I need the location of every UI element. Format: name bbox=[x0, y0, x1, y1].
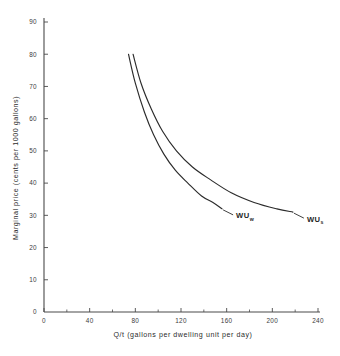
x-tick-label: 40 bbox=[86, 317, 94, 324]
chart-background bbox=[0, 0, 340, 356]
x-tick-label: 0 bbox=[42, 317, 46, 324]
x-tick-label: 120 bbox=[175, 317, 187, 324]
y-tick-label: 30 bbox=[29, 212, 37, 219]
y-axis-title: Marginal price (cents per 1000 gallons) bbox=[12, 96, 20, 240]
marginal-price-demand-chart: 04080120160200240 0102030405060708090 WU… bbox=[0, 0, 340, 356]
curve-label-text: WU bbox=[307, 215, 321, 224]
y-tick-label: 50 bbox=[29, 147, 37, 154]
y-tick-label: 80 bbox=[29, 51, 37, 58]
y-tick-label: 0 bbox=[33, 308, 37, 315]
y-tick-label: 70 bbox=[29, 83, 37, 90]
y-tick-label: 90 bbox=[29, 18, 37, 25]
x-tick-label: 80 bbox=[131, 317, 139, 324]
y-tick-label: 20 bbox=[29, 244, 37, 251]
x-axis-title: Q/t (gallons per dwelling unit per day) bbox=[114, 331, 253, 339]
y-tick-label: 10 bbox=[29, 276, 37, 283]
curve-label-subscript: s bbox=[321, 219, 324, 225]
x-tick-label: 200 bbox=[266, 317, 278, 324]
y-tick-label: 60 bbox=[29, 115, 37, 122]
x-tick-label: 160 bbox=[221, 317, 233, 324]
x-tick-label: 240 bbox=[312, 317, 324, 324]
curve-label-text: WU bbox=[236, 211, 250, 220]
y-tick-label: 40 bbox=[29, 179, 37, 186]
curve-label-subscript: w bbox=[249, 216, 255, 222]
chart-figure: 04080120160200240 0102030405060708090 WU… bbox=[0, 0, 340, 356]
